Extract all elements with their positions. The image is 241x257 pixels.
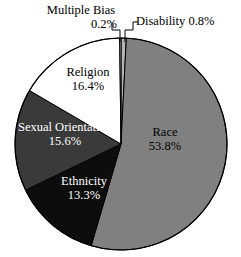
slice-label-ethnicity-name: Ethnicity: [61, 174, 107, 188]
slice-label-sexual-orientation-value: 15.6%: [6, 135, 124, 149]
slice-label-multiple-bias-name: Multiple Bias: [47, 3, 115, 17]
slice-label-sexual-orientation: Sexual Orientation 15.6%: [6, 121, 124, 149]
slice-label-multiple-bias-value: 0.2%: [43, 18, 119, 32]
pie-chart-figure: Multiple Bias 0.2% Disability 0.8% Race …: [0, 0, 241, 257]
slice-label-race: Race 53.8%: [134, 126, 196, 154]
slice-label-race-value: 53.8%: [134, 140, 196, 154]
slice-label-disability: Disability 0.8%: [136, 15, 214, 29]
slice-label-sexual-orientation-name: Sexual Orientation: [18, 120, 112, 134]
slice-label-ethnicity: Ethnicity 13.3%: [44, 175, 124, 203]
slice-label-religion-value: 16.4%: [50, 80, 126, 94]
slice-label-ethnicity-value: 13.3%: [44, 189, 124, 203]
slice-label-race-name: Race: [153, 125, 178, 139]
slice-label-religion: Religion 16.4%: [50, 66, 126, 94]
slice-label-disability-text: Disability 0.8%: [136, 14, 214, 28]
slice-label-multiple-bias: Multiple Bias 0.2%: [43, 4, 119, 31]
slice-label-religion-name: Religion: [66, 65, 109, 79]
